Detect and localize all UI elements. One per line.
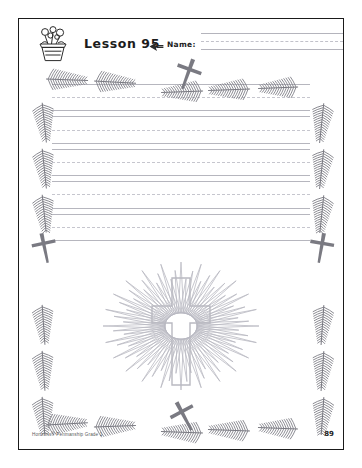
- writing-line-group[interactable]: [52, 116, 310, 142]
- footer-credit: Horizons® Penmanship Grade 1: [32, 432, 102, 437]
- writing-line-baseline: [52, 240, 310, 241]
- writing-line-baseline: [52, 143, 310, 144]
- writing-line-top: [52, 181, 310, 182]
- writing-line-top: [52, 149, 310, 150]
- pointer-arrow-icon: [148, 38, 164, 49]
- writing-line-middle: [52, 130, 310, 131]
- writing-line-middle: [52, 227, 310, 228]
- worksheet-header: Lesson 95 Name:: [24, 24, 338, 60]
- writing-line-baseline: [52, 110, 310, 111]
- writing-line-group[interactable]: [52, 84, 310, 110]
- writing-line-top: [52, 214, 310, 215]
- writing-line-middle: [52, 162, 310, 163]
- writing-line-middle: [52, 97, 310, 98]
- name-field-label: Name:: [167, 40, 196, 49]
- writing-line-top: [52, 84, 310, 85]
- handwriting-practice-lines[interactable]: [52, 84, 310, 246]
- writing-line-top: [52, 116, 310, 117]
- writing-line-group[interactable]: [52, 214, 310, 240]
- page-number: 89: [324, 430, 334, 438]
- cross-sunburst-illustration: [52, 252, 310, 410]
- writing-line-group[interactable]: [52, 181, 310, 207]
- writing-line-baseline: [52, 208, 310, 209]
- name-input-line[interactable]: [201, 30, 343, 52]
- writing-line-baseline: [52, 175, 310, 176]
- worksheet-page: Lesson 95 Name: Horizons® Penmanship Gra…: [0, 0, 362, 468]
- writing-line-group[interactable]: [52, 149, 310, 175]
- flower-pot-icon: [32, 25, 74, 63]
- writing-line-middle: [52, 194, 310, 195]
